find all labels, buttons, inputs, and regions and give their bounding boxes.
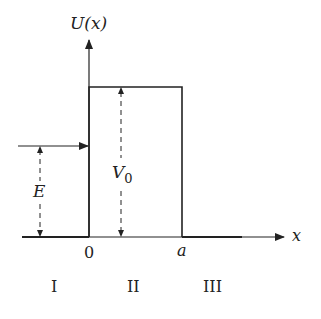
y-axis-label: U(x) [70, 13, 107, 33]
width-label: a [177, 241, 187, 260]
region-label-1: I [51, 277, 57, 296]
region-label-2: II [127, 277, 140, 296]
potential-barrier [89, 87, 182, 237]
x-axis-label: x [292, 226, 301, 245]
energy-label: E [32, 181, 46, 201]
origin-label: 0 [84, 243, 94, 262]
region-label-3: III [203, 277, 222, 296]
potential-barrier-diagram: U(x) x E V0 0 a I II III [0, 0, 321, 319]
